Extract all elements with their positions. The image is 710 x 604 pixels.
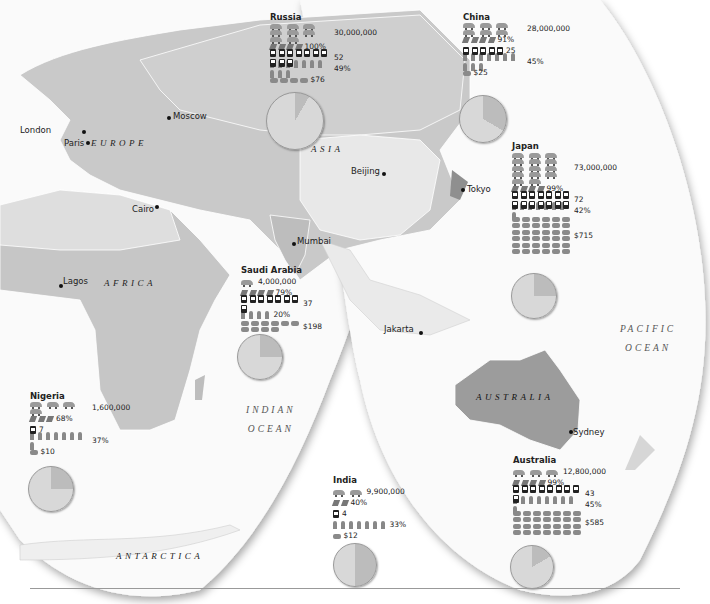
- phone-icon: [497, 47, 503, 55]
- coin-icon: [270, 78, 278, 83]
- cars-value-row: 9,900,000: [333, 487, 406, 498]
- car-icon: [30, 402, 42, 407]
- person-icon: [310, 60, 314, 68]
- coin-icon: [251, 327, 259, 332]
- coin-icon: [291, 321, 299, 326]
- car-icons: [463, 23, 525, 35]
- coin-icon: [543, 511, 551, 516]
- car-icon: [480, 23, 492, 28]
- phone-icon: [267, 295, 273, 303]
- people-percent-row: 33%: [333, 520, 406, 531]
- ocean-label-indian: INDIAN OCEAN: [246, 405, 296, 434]
- cars-value: 9,900,000: [367, 488, 405, 496]
- people-percent-row: 37%: [30, 436, 130, 447]
- pie-chart-india: [333, 543, 377, 587]
- money-value-row: $198: [241, 321, 322, 333]
- phone-icon: [313, 49, 319, 57]
- coin-icon: [271, 327, 279, 332]
- car-icons: [512, 153, 572, 184]
- cars-value: 1,600,000: [92, 404, 130, 412]
- coin-icon: [563, 530, 571, 535]
- bar-icon: [479, 37, 487, 43]
- city-dot-moscow: [167, 116, 171, 120]
- bar-icon: [46, 416, 54, 422]
- phone-icon: [513, 495, 519, 503]
- money-value: $12: [344, 532, 358, 540]
- phone-icon: [563, 191, 569, 199]
- ocean-label-indian-line1: INDIAN: [246, 405, 296, 415]
- pie-chart-japan: [511, 273, 557, 319]
- person-icon: [265, 311, 269, 319]
- phone-icon: [250, 295, 256, 303]
- coin-icon: [562, 249, 570, 254]
- coin-icon: [533, 530, 541, 535]
- region-label-antarctica: ANTARCTICA: [116, 551, 203, 561]
- car-icon: [270, 24, 282, 29]
- phones-value: 72: [574, 196, 584, 204]
- person-icon: [78, 432, 82, 440]
- person-icon: [381, 521, 385, 529]
- coin-icon: [542, 223, 550, 228]
- cars-value-row: 28,000,000: [463, 24, 570, 35]
- coin-icon: [522, 223, 530, 228]
- country-name: Australia: [513, 456, 606, 465]
- coin-icon: [543, 517, 551, 522]
- coin-icon: [552, 223, 560, 228]
- country-name: Nigeria: [30, 392, 130, 401]
- coin-icon: [553, 530, 561, 535]
- city-label-lagos: Lagos: [63, 276, 88, 286]
- coin-icon: [513, 511, 521, 516]
- coin-icon: [542, 249, 550, 254]
- country-panel-india: India9,900,00040%433%$12: [333, 476, 406, 542]
- coin-icon: [533, 517, 541, 522]
- car-icon: [512, 159, 524, 164]
- people-percent: 45%: [527, 58, 544, 66]
- coin-icon: [552, 230, 560, 235]
- person-icons: [333, 521, 388, 529]
- person-icons: [463, 53, 525, 71]
- person-icon: [318, 60, 322, 68]
- country-name: China: [463, 13, 570, 22]
- phone-icon: [547, 485, 553, 493]
- coin-icon: [562, 223, 570, 228]
- phone-icon: [241, 305, 247, 313]
- phone-icon: [573, 485, 579, 493]
- coin-icon: [573, 517, 581, 522]
- coin-icon: [512, 236, 520, 241]
- region-label-asia: ASIA: [311, 144, 344, 154]
- coin-icon: [542, 236, 550, 241]
- cars-value-row: 1,600,000: [30, 403, 130, 414]
- phone-icon: [556, 485, 562, 493]
- person-icon: [302, 60, 306, 68]
- people-percent: 42%: [574, 207, 591, 215]
- phone-icon: [258, 295, 264, 303]
- coin-icon: [300, 78, 308, 83]
- bar-icon: [340, 500, 348, 506]
- person-icon: [294, 60, 298, 68]
- phones-value: 43: [585, 490, 595, 498]
- coin-icon: [542, 243, 550, 248]
- phone-icon: [555, 201, 561, 209]
- car-icons: [513, 470, 561, 475]
- country-name: Saudi Arabia: [241, 266, 322, 275]
- coin-icon: [512, 249, 520, 254]
- pie-chart-russia: [266, 92, 324, 150]
- person-icons: [30, 432, 90, 450]
- country-panel-russia: Russia30,000,000100%5249%$76: [270, 13, 377, 86]
- coin-icon: [573, 530, 581, 535]
- money-value: $25: [474, 69, 488, 77]
- person-icon: [333, 521, 337, 529]
- coin-icon: [562, 230, 570, 235]
- coin-icon: [543, 524, 551, 529]
- coin-icon: [563, 511, 571, 516]
- bar-percent-row: 68%: [30, 414, 130, 425]
- car-icon: [63, 402, 75, 407]
- car-icon: [512, 166, 524, 171]
- coin-icon: [552, 236, 560, 241]
- money-value-row: $715: [512, 217, 617, 255]
- coin-icon: [512, 243, 520, 248]
- phone-icon: [296, 49, 302, 57]
- people-percent-row: 45%: [463, 57, 570, 68]
- person-icon: [365, 521, 369, 529]
- car-icon: [529, 153, 541, 158]
